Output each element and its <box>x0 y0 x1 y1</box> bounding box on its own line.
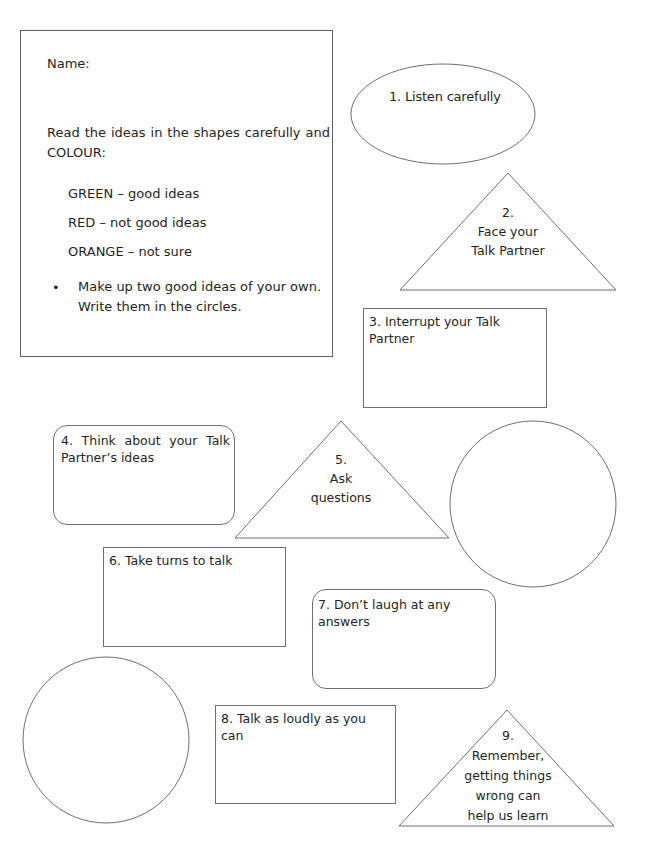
idea-1-ellipse[interactable] <box>351 64 535 164</box>
idea-6-text: 6. Take turns to talk <box>109 552 281 569</box>
instructions-box: Name: Read the ideas in the shapes caref… <box>20 30 333 357</box>
idea-5-line: questions <box>286 488 396 507</box>
idea-9-text: 9. Remember, getting things wrong can he… <box>448 726 568 826</box>
own-idea-circle-1[interactable] <box>450 421 616 587</box>
idea-4-text: 4. Think about your Talk Partner’s ideas <box>61 432 230 466</box>
idea-3-text: 3. Interrupt your Talk Partner <box>369 313 542 347</box>
idea-5-line: Ask <box>286 469 396 488</box>
bullet-icon: • <box>52 280 60 295</box>
bullet-instruction: Make up two good ideas of your own. Writ… <box>78 277 338 317</box>
legend-red: RED – not good ideas <box>68 215 207 230</box>
idea-2-line: Face your <box>448 222 568 241</box>
legend-green: GREEN – good ideas <box>68 186 199 201</box>
idea-2-line: Talk Partner <box>448 241 568 260</box>
idea-5-number: 5. <box>286 450 396 469</box>
idea-6-rectangle[interactable]: 6. Take turns to talk <box>103 547 286 647</box>
idea-5-text: 5. Ask questions <box>286 450 396 507</box>
idea-9-number: 9. <box>448 726 568 746</box>
idea-9-line: help us learn <box>448 806 568 826</box>
idea-3-rectangle[interactable]: 3. Interrupt your Talk Partner <box>363 308 547 408</box>
idea-8-text: 8. Talk as loudly as you can <box>221 710 391 744</box>
name-label[interactable]: Name: <box>47 56 90 71</box>
idea-2-text: 2. Face your Talk Partner <box>448 203 568 260</box>
idea-1-text: 1. Listen carefully <box>389 88 501 105</box>
idea-9-line: wrong can <box>448 786 568 806</box>
idea-7-text: 7. Don’t laugh at any answers <box>318 596 491 630</box>
instructions-intro: Read the ideas in the shapes carefully a… <box>47 123 330 163</box>
idea-2-number: 2. <box>448 203 568 222</box>
legend-orange: ORANGE – not sure <box>68 244 192 259</box>
idea-9-line: Remember, <box>448 746 568 766</box>
own-idea-circle-2[interactable] <box>23 657 189 823</box>
idea-8-rectangle[interactable]: 8. Talk as loudly as you can <box>215 705 396 804</box>
idea-4-rounded-rectangle[interactable]: 4. Think about your Talk Partner’s ideas <box>53 425 235 525</box>
idea-7-rounded-rectangle[interactable]: 7. Don’t laugh at any answers <box>312 589 496 689</box>
idea-9-line: getting things <box>448 766 568 786</box>
